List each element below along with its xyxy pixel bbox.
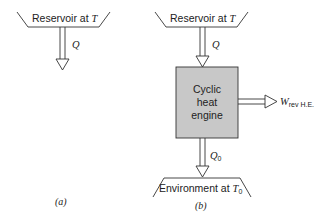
work-arrow xyxy=(238,95,277,108)
reservoir-a-text: Reservoir at xyxy=(32,12,92,24)
caption-b: (b) xyxy=(195,201,207,211)
heat-out-arrow xyxy=(196,138,209,177)
reservoir-a-label: Reservoir at T xyxy=(32,13,97,25)
engine-line-2: heat xyxy=(197,96,217,109)
heat-engine-label: Cyclic heat engine xyxy=(176,67,238,138)
heat-in-arrow xyxy=(196,27,209,67)
environment-subscript: 0 xyxy=(238,188,242,195)
work-symbol: W xyxy=(280,96,289,107)
reservoir-b-temperature: T xyxy=(230,13,236,24)
heat-in-label: Q xyxy=(212,40,220,51)
engine-line-1: Cyclic xyxy=(193,83,221,96)
heat-out-symbol: Q xyxy=(210,150,218,161)
environment-text: Environment at xyxy=(159,182,233,194)
reservoir-b-label: Reservoir at T xyxy=(170,13,235,25)
environment-label: Environment at T0 xyxy=(159,183,242,195)
reservoir-b-text: Reservoir at xyxy=(170,12,230,24)
work-subscript: rev H.E. xyxy=(289,101,314,108)
caption-a: (a) xyxy=(55,197,67,207)
heat-out-label: Q0 xyxy=(210,150,222,162)
work-label: Wrev H.E. xyxy=(280,96,314,108)
heat-arrow-a xyxy=(56,27,69,70)
reservoir-a-temperature: T xyxy=(92,13,98,24)
heat-out-subscript: 0 xyxy=(218,155,222,162)
engine-line-3: engine xyxy=(191,109,223,122)
heat-a-label: Q xyxy=(72,40,80,51)
